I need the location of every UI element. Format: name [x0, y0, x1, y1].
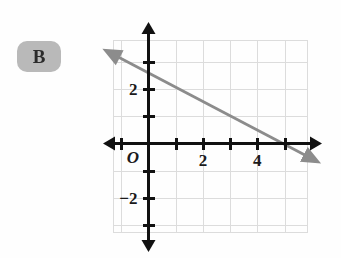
x-axis-left-arrowhead: [103, 137, 115, 151]
x-axis-right-arrowhead: [310, 137, 322, 151]
coordinate-plane: 242−2 O: [0, 0, 341, 258]
x-tick-label: 2: [199, 151, 208, 170]
series-layer: [117, 56, 306, 155]
worksheet-figure: B: [0, 0, 341, 258]
y-tick-label: −2: [119, 189, 137, 208]
origin-label: O: [127, 148, 139, 167]
y-tick-label: 2: [129, 80, 138, 99]
axes: [103, 22, 322, 252]
y-axis-top-arrowhead: [142, 22, 156, 34]
x-tick-label: 4: [253, 151, 262, 170]
graph-svg: 242−2 O: [0, 0, 341, 258]
plotted-line: [117, 56, 306, 155]
y-axis-bottom-arrowhead: [142, 240, 156, 252]
